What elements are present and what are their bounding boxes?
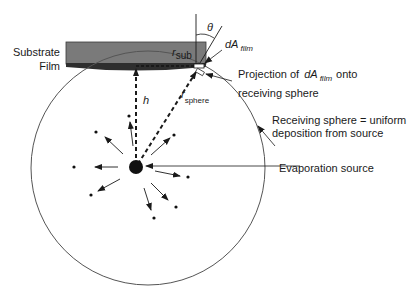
film-label: Film bbox=[39, 60, 60, 72]
evaporation-diagram: Substrate Film rsub θ dAfilm Projection … bbox=[0, 0, 410, 287]
receiving-sphere-label-line2: deposition from source bbox=[272, 127, 383, 139]
evaporation-source-label: Evaporation source bbox=[279, 162, 374, 174]
projection-label-line1: Projection ofdAfilmonto bbox=[238, 68, 358, 83]
dA-projection-element bbox=[196, 68, 205, 75]
receiving-sphere bbox=[31, 51, 265, 285]
receiving-sphere-label-line1: Receiving sphere = uniform bbox=[272, 114, 406, 126]
substrate-label: Substrate bbox=[13, 46, 60, 58]
dA-film-element bbox=[194, 64, 204, 68]
r-sphere-dashed-line bbox=[138, 72, 196, 164]
dA-film-pointer bbox=[205, 50, 222, 63]
dA-film-label: dAfilm bbox=[225, 38, 253, 53]
evaporation-source-dot bbox=[129, 160, 143, 174]
projection-label-line2: receiving sphere bbox=[238, 87, 319, 99]
theta-arc bbox=[196, 34, 214, 38]
theta-label: θ bbox=[207, 21, 213, 33]
h-label: h bbox=[143, 94, 149, 106]
